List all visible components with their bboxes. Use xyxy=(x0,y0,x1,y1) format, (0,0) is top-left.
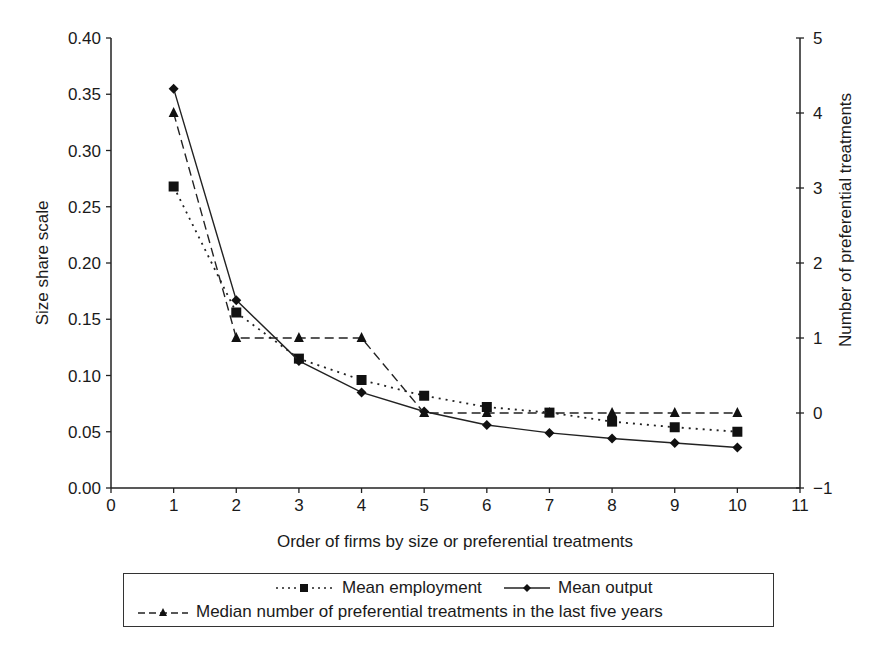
solid-diamond-marker-icon xyxy=(502,581,552,595)
svg-text:4: 4 xyxy=(813,104,822,123)
dotted-square-marker-icon xyxy=(274,581,336,595)
svg-text:0.25: 0.25 xyxy=(68,198,101,217)
legend-label: Mean output xyxy=(558,578,653,598)
svg-text:6: 6 xyxy=(482,496,491,515)
svg-text:0.00: 0.00 xyxy=(68,479,101,498)
svg-text:5: 5 xyxy=(419,496,428,515)
svg-text:8: 8 xyxy=(607,496,616,515)
legend: Mean employment Mean output Median numbe… xyxy=(123,573,774,627)
y2-axis-title: Number of preferential treatments xyxy=(836,93,855,347)
svg-text:10: 10 xyxy=(728,496,747,515)
legend-label: Mean employment xyxy=(342,578,482,598)
svg-text:0.10: 0.10 xyxy=(68,367,101,386)
svg-text:−1: −1 xyxy=(813,479,832,498)
svg-text:7: 7 xyxy=(545,496,554,515)
svg-text:9: 9 xyxy=(670,496,679,515)
svg-text:0.05: 0.05 xyxy=(68,423,101,442)
svg-text:11: 11 xyxy=(791,496,809,515)
svg-text:0.35: 0.35 xyxy=(68,85,101,104)
x-axis-title: Order of firms by size or preferential t… xyxy=(277,532,633,551)
legend-item-median-treatments: Median number of preferential treatments… xyxy=(136,602,663,622)
legend-item-mean-employment: Mean employment xyxy=(274,578,482,598)
axes xyxy=(106,38,804,493)
svg-text:3: 3 xyxy=(294,496,303,515)
svg-text:2: 2 xyxy=(232,496,241,515)
legend-label: Median number of preferential treatments… xyxy=(196,602,663,622)
svg-text:0: 0 xyxy=(813,404,822,423)
svg-text:0.20: 0.20 xyxy=(68,254,101,273)
svg-text:0.30: 0.30 xyxy=(68,142,101,161)
svg-text:3: 3 xyxy=(813,179,822,198)
svg-text:1: 1 xyxy=(813,329,822,348)
tick-labels: 012345678910110.000.050.100.150.200.250.… xyxy=(68,29,832,515)
svg-text:2: 2 xyxy=(813,254,822,273)
legend-item-mean-output: Mean output xyxy=(502,578,653,598)
y-axis-title: Size share scale xyxy=(33,201,52,326)
svg-text:0.40: 0.40 xyxy=(68,29,101,48)
svg-text:5: 5 xyxy=(813,29,822,48)
svg-text:1: 1 xyxy=(169,496,178,515)
series-lines xyxy=(169,84,743,453)
svg-text:4: 4 xyxy=(357,496,366,515)
dashed-triangle-marker-icon xyxy=(136,605,190,619)
chart: 012345678910110.000.050.100.150.200.250.… xyxy=(0,0,884,570)
svg-text:0: 0 xyxy=(106,496,115,515)
svg-text:0.15: 0.15 xyxy=(68,310,101,329)
